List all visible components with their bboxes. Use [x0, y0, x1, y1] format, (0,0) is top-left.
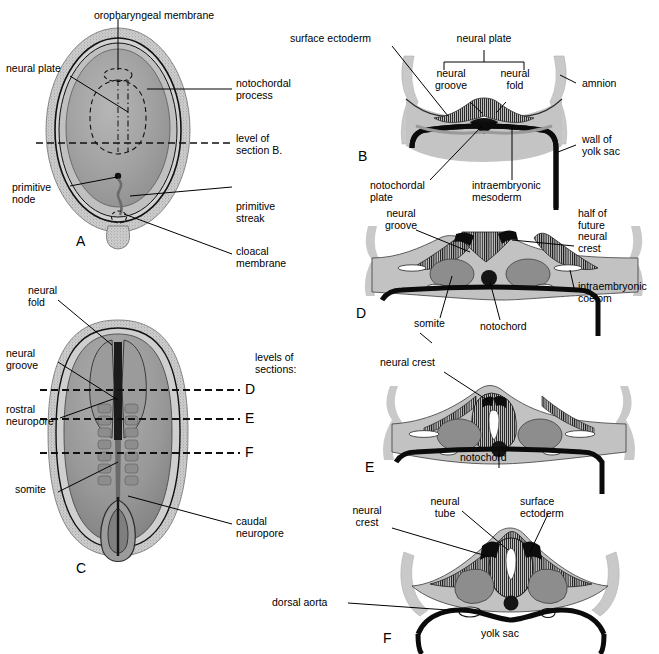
label-yolk-sac-f: yolk sac: [481, 628, 519, 640]
label-dorsal-aorta: dorsal aorta: [272, 597, 327, 609]
figure-canvas: oropharyngeal membrane neural plate noto…: [0, 0, 659, 654]
label-neural-crest-e: neural crest: [380, 357, 435, 369]
label-notochordal-process: notochordal process: [236, 78, 291, 101]
label-somite-d: somite: [414, 318, 445, 330]
label-notochord-d: notochord: [480, 321, 527, 333]
panel-letter-d: D: [356, 305, 366, 321]
panel-c-drawing: [40, 300, 240, 562]
level-letter-f: F: [245, 444, 254, 460]
label-surface-ectoderm-b: surface ectoderm: [290, 33, 371, 45]
label-rostral-neuropore: rostral neuropore: [6, 404, 54, 427]
label-primitive-streak: primitive streak: [236, 201, 275, 224]
label-cloacal-membrane: cloacal membrane: [236, 246, 286, 269]
label-neural-fold-b: neural fold: [492, 68, 538, 91]
label-wall-of-yolk-sac: wall of yolk sac: [582, 134, 620, 157]
label-intraembryonic-mesoderm: intraembryonic mesoderm: [472, 180, 541, 203]
label-amnion: amnion: [582, 78, 616, 90]
panel-a-drawing: [36, 18, 232, 254]
label-neural-fold-c: neural fold: [28, 285, 57, 308]
label-neural-plate-a: neural plate: [6, 63, 61, 75]
label-surface-ectoderm-f: surface ectoderm: [520, 496, 564, 519]
panel-letter-a: A: [76, 233, 85, 249]
label-level-of-section-b: level of section B.: [236, 133, 282, 156]
label-intraembryonic-coelom: intraembryonic coelom: [578, 281, 647, 304]
level-letter-e: E: [245, 410, 254, 426]
neurulation-diagram: [0, 0, 659, 654]
label-neural-plate-b: neural plate: [434, 33, 534, 45]
panel-letter-e: E: [365, 459, 374, 475]
label-neural-groove-b: neural groove: [424, 68, 478, 91]
panel-letter-f: F: [383, 630, 392, 646]
level-letter-d: D: [245, 381, 255, 397]
label-neural-crest-f: neural crest: [340, 505, 394, 528]
label-half-of-future-neural-crest: half of future neural crest: [578, 208, 607, 254]
label-notochordal-plate: notochordal plate: [370, 180, 425, 203]
label-neural-tube: neural tube: [418, 496, 472, 519]
label-notochord-e: notochord: [460, 452, 507, 464]
label-neural-groove-c: neural groove: [6, 348, 38, 371]
label-primitive-node: primitive node: [12, 182, 51, 205]
label-neural-groove-d: neural groove: [374, 208, 428, 231]
label-caudal-neuropore: caudal neuropore: [236, 516, 284, 539]
label-oropharyngeal-membrane: oropharyngeal membrane: [66, 10, 242, 22]
label-levels-of-sections: levels of sections:: [255, 352, 296, 375]
label-somite-c: somite: [15, 484, 46, 496]
panel-letter-b: B: [358, 148, 367, 164]
panel-letter-c: C: [76, 560, 86, 576]
